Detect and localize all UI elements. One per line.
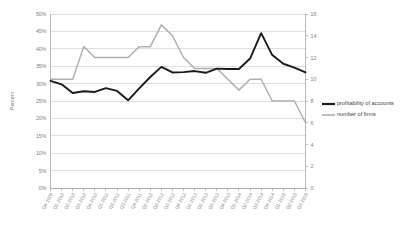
chart-container: 50%45%40%35%30%25%20%15%10%5%0% 16141210… xyxy=(0,0,414,228)
y-axis-tick-label: 20% xyxy=(36,115,47,121)
secondary-y-axis-tick-label: 14 xyxy=(311,33,317,39)
secondary-y-axis-tick-label: 4 xyxy=(311,142,314,148)
legend-label: number of firms xyxy=(337,111,376,117)
y-axis-tick-label: 40% xyxy=(36,46,47,52)
secondary-y-axis-tick-label: 6 xyxy=(311,120,314,126)
y-axis-tick-label: 25% xyxy=(36,98,47,104)
chart-svg: 50%45%40%35%30%25%20%15%10%5%0% 16141210… xyxy=(0,0,414,228)
secondary-y-axis-tick-label: 2 xyxy=(311,163,314,169)
secondary-y-axis-tick-label: 12 xyxy=(311,55,317,61)
secondary-y-axis-tick-label: 8 xyxy=(311,98,314,104)
y-axis-tick-label: 30% xyxy=(36,81,47,87)
secondary-y-axis-tick-label: 16 xyxy=(311,11,317,17)
y-axis-tick-label: 35% xyxy=(36,63,47,69)
legend-label: profitability of accounts xyxy=(337,100,394,106)
y-axis-tick-label: 45% xyxy=(36,28,47,34)
secondary-y-axis-tickmarks xyxy=(306,14,309,188)
gridlines-group xyxy=(51,14,306,188)
series-line-number-of-firms xyxy=(51,25,306,123)
y-axis-tick-label: 50% xyxy=(36,11,47,17)
y-axis-title: Percent xyxy=(9,91,15,110)
legend: profitability of accountsnumber of firms xyxy=(322,100,394,117)
y-axis-tick-label: 15% xyxy=(36,133,47,139)
x-axis-tick-labels: Q4-2009Q1-2010Q2-2010Q3-2010Q4-2010Q1-20… xyxy=(41,192,309,211)
x-axis-tick-label: Q3-2015 xyxy=(296,192,309,211)
y-axis-tick-label: 0% xyxy=(39,185,47,191)
secondary-y-axis-tick-label: 10 xyxy=(311,76,317,82)
y-axis-tick-labels: 50%45%40%35%30%25%20%15%10%5%0% xyxy=(36,11,47,191)
y-axis-tick-label: 10% xyxy=(36,150,47,156)
secondary-y-axis-tick-labels: 1614121086420 xyxy=(311,11,317,191)
y-axis-tick-label: 5% xyxy=(39,168,47,174)
secondary-y-axis-tick-label: 0 xyxy=(311,185,314,191)
